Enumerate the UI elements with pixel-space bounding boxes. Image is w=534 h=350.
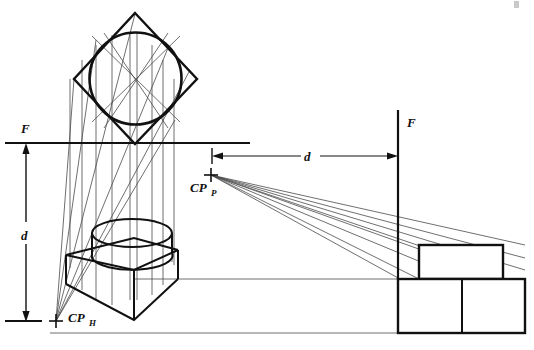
cp-p-subscript: P [211, 188, 217, 198]
cp-h-label: CP [68, 310, 86, 325]
right-upper-box [419, 245, 503, 279]
upper-box-rect [419, 245, 503, 279]
perspective-construction-diagram: d F CP H CP P d F [0, 0, 534, 350]
picture-plane-label-right: F [406, 115, 416, 130]
picture-plane-label-left: F [20, 121, 30, 136]
cp-h-subscript: H [88, 318, 97, 328]
registration-mark [514, 1, 519, 8]
vertical-dimension-label: d [21, 228, 28, 243]
cp-p-label: CP [190, 180, 208, 195]
technical-drawing-figure: d F CP H CP P d F [0, 0, 534, 350]
horizontal-dimension-label: d [304, 149, 311, 164]
right-lower-box [398, 279, 525, 333]
